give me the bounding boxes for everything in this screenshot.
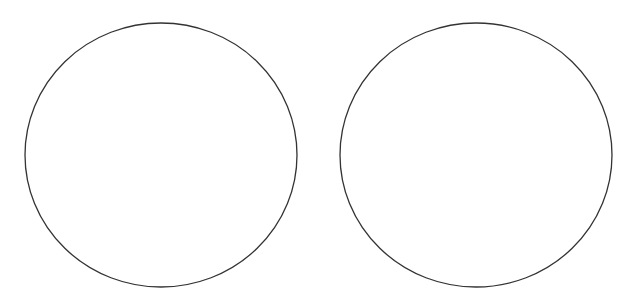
diagram-canvas <box>0 0 625 308</box>
right-circle <box>340 23 612 287</box>
left-circle <box>25 23 297 287</box>
